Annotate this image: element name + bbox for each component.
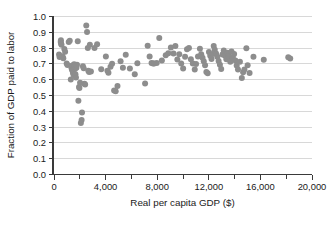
y-axis-group: 0.00.10.20.30.40.50.60.70.80.91.0 <box>33 11 53 180</box>
y-tick-label: 0.6 <box>33 74 46 85</box>
data-point <box>118 58 124 64</box>
data-point <box>197 46 203 52</box>
data-point <box>73 75 79 81</box>
data-point <box>182 54 188 60</box>
data-point <box>120 65 126 71</box>
data-point <box>88 69 94 75</box>
x-tick-label: 20,000 <box>298 181 327 192</box>
x-tick-label: 12,000 <box>194 181 223 192</box>
data-point <box>98 66 104 72</box>
data-point <box>79 110 85 116</box>
data-point <box>127 65 133 71</box>
data-point <box>83 22 89 28</box>
data-point <box>247 70 253 76</box>
x-axis-group: 04,0008,00012,00016,00020,000 <box>51 175 326 193</box>
data-point <box>114 83 120 89</box>
x-axis-title: Real per capita GDP ($) <box>130 197 234 208</box>
data-point <box>109 61 115 67</box>
data-point <box>132 71 138 77</box>
data-point <box>170 51 176 57</box>
data-point <box>205 70 211 76</box>
data-point <box>82 81 88 87</box>
y-tick-label: 0.9 <box>33 27 46 38</box>
data-point <box>165 50 171 56</box>
data-point <box>67 38 73 44</box>
data-point <box>60 55 66 61</box>
y-tick-label: 0.0 <box>33 169 46 180</box>
y-tick-label: 0.3 <box>33 122 46 133</box>
data-point <box>235 66 241 72</box>
y-tick-label: 1.0 <box>33 11 46 22</box>
data-point <box>237 59 243 65</box>
x-tick-label: 0 <box>51 181 56 192</box>
x-tick-label: 4,000 <box>94 181 117 192</box>
data-point <box>154 60 160 66</box>
data-point <box>105 70 111 76</box>
data-point <box>209 56 215 62</box>
data-point <box>142 80 148 86</box>
y-tick-label: 0.1 <box>33 153 46 164</box>
data-point <box>123 52 129 58</box>
y-tick-label: 0.4 <box>33 106 46 117</box>
data-point <box>75 98 81 104</box>
data-point <box>186 45 192 51</box>
data-point <box>176 51 182 57</box>
data-points-group <box>56 22 293 125</box>
data-point <box>79 117 85 123</box>
data-point <box>94 41 100 47</box>
data-point <box>75 38 81 44</box>
data-point <box>159 58 165 64</box>
data-point <box>202 62 208 68</box>
y-tick-label: 0.8 <box>33 43 46 54</box>
data-point <box>192 66 198 72</box>
chart-canvas: 0.00.10.20.30.40.50.60.70.80.91.004,0008… <box>0 0 336 230</box>
data-point <box>147 53 153 59</box>
y-tick-label: 0.5 <box>33 90 46 101</box>
y-tick-label: 0.2 <box>33 137 46 148</box>
data-point <box>172 43 178 49</box>
data-point <box>62 49 68 55</box>
data-point <box>103 53 109 59</box>
data-point <box>243 45 249 51</box>
data-point <box>250 54 256 60</box>
x-tick-label: 16,000 <box>246 181 275 192</box>
data-point <box>76 85 82 91</box>
data-point <box>193 61 199 67</box>
data-point <box>84 29 90 35</box>
data-point <box>74 62 80 68</box>
data-point <box>231 51 237 57</box>
data-point <box>287 56 293 62</box>
y-tick-label: 0.7 <box>33 58 46 69</box>
data-point <box>156 35 162 41</box>
data-point <box>134 60 140 66</box>
data-point <box>145 43 151 49</box>
scatter-plot-figure: 0.00.10.20.30.40.50.60.70.80.91.004,0008… <box>0 0 336 230</box>
data-point <box>218 66 224 72</box>
data-point <box>239 75 245 81</box>
gridlines-group <box>54 17 312 159</box>
data-point <box>245 62 251 68</box>
data-point <box>261 57 267 63</box>
x-tick-label: 8,000 <box>145 181 168 192</box>
data-point <box>113 88 119 94</box>
y-axis-title: Fraction of GDP paid to labor <box>5 31 16 158</box>
data-point <box>180 65 186 71</box>
